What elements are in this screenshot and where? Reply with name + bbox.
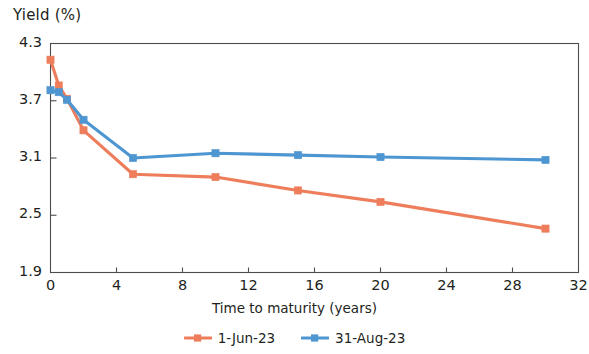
data-point-marker (129, 171, 136, 178)
data-point-marker (294, 187, 301, 194)
data-point-marker (47, 56, 54, 63)
legend-item-1[interactable]: 1-Jun-23 (184, 330, 275, 346)
legend-swatch-icon (184, 332, 212, 344)
data-point-marker (80, 116, 87, 123)
x-axis-title: Time to maturity (years) (0, 300, 589, 316)
data-point-marker (129, 154, 136, 161)
legend-label: 1-Jun-23 (218, 330, 275, 346)
data-point-marker (55, 89, 62, 96)
data-point-marker (542, 156, 549, 163)
legend-label: 31-Aug-23 (335, 330, 405, 346)
data-point-marker (377, 153, 384, 160)
series-line (51, 60, 546, 229)
data-point-marker (212, 173, 219, 180)
yield-curve-chart: Yield (%) 1.92.53.13.74.3 04812162024283… (0, 0, 589, 354)
data-point-marker (294, 152, 301, 159)
series-2 (47, 87, 549, 164)
data-point-marker (542, 225, 549, 232)
legend-swatch-icon (301, 332, 329, 344)
series-1 (47, 56, 549, 232)
chart-legend: 1-Jun-2331-Aug-23 (0, 330, 589, 346)
data-point-marker (80, 127, 87, 134)
data-point-marker (55, 82, 62, 89)
legend-item-2[interactable]: 31-Aug-23 (301, 330, 405, 346)
data-point-marker (377, 198, 384, 205)
data-point-marker (63, 96, 70, 103)
series-line (51, 90, 546, 160)
data-point-marker (212, 150, 219, 157)
data-point-marker (47, 87, 54, 94)
